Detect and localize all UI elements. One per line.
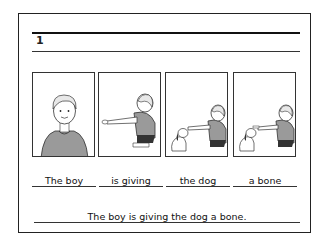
full-sentence: The boy is giving the dog a bone. xyxy=(34,211,300,223)
word-a-bone: a bone xyxy=(233,175,297,187)
top-rule xyxy=(32,32,300,34)
boy-giving-to-dog-illustration xyxy=(166,73,228,157)
panel-boy-dog xyxy=(165,72,228,157)
word-the-dog: the dog xyxy=(166,175,230,187)
boy-crouching-reaching-illustration xyxy=(99,73,161,157)
card-number: 1 xyxy=(36,34,44,47)
panel-boy-bone-dog xyxy=(233,72,296,157)
word-is-giving: is giving xyxy=(99,175,163,187)
panel-boy-reaching xyxy=(98,72,161,157)
word-the-boy: The boy xyxy=(32,175,96,187)
boy-standing-illustration xyxy=(33,73,95,157)
number-rule xyxy=(32,51,300,52)
panel-boy-standing xyxy=(32,72,95,157)
boy-giving-bone-to-dog-illustration xyxy=(234,73,296,157)
sentence-card: 1 xyxy=(18,13,311,233)
